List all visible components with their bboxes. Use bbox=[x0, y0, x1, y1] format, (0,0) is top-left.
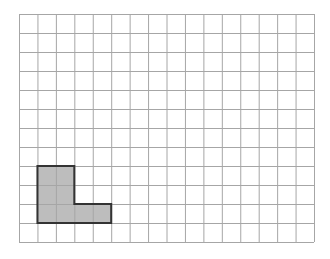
grid-diagram-svg bbox=[0, 0, 330, 259]
grid-lines bbox=[19, 14, 315, 243]
grid-diagram bbox=[0, 0, 330, 259]
